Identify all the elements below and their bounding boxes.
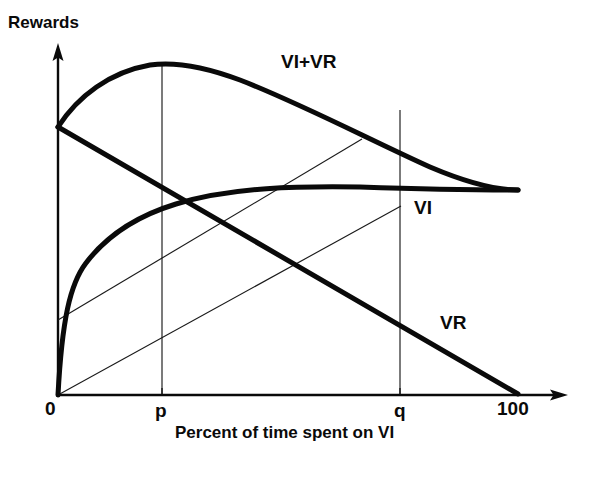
curve-label-vi-plus-vr: VI+VR xyxy=(281,52,336,71)
tangent-line-from-axis xyxy=(58,139,362,320)
curve-label-vi: VI xyxy=(414,198,432,217)
tangent-lines-group xyxy=(58,139,401,395)
reward-matching-figure: Rewards Percent of time spent on VI VI+V… xyxy=(0,0,591,480)
x-axis-title: Percent of time spent on VI xyxy=(175,424,394,441)
curve-vi-plus-vr xyxy=(58,64,518,190)
curve-label-vr: VR xyxy=(440,313,466,332)
reference-lines-group xyxy=(162,64,400,395)
xtick-label-p: p xyxy=(155,401,167,420)
xtick-label-q: q xyxy=(394,401,406,420)
curve-vr xyxy=(58,127,518,394)
xtick-label-0: 0 xyxy=(45,399,56,418)
curve-vi xyxy=(58,187,518,395)
tangent-line-from-origin xyxy=(58,206,401,395)
xtick-label-100: 100 xyxy=(497,399,529,418)
y-axis-label: Rewards xyxy=(8,14,79,31)
